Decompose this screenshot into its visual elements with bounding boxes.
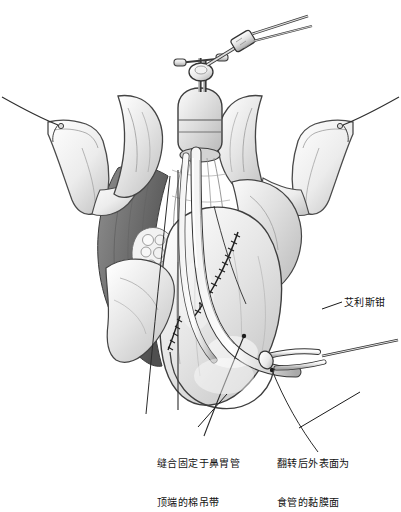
mucosa-label-line1: 翻转后外表面为 — [277, 457, 350, 470]
sling-label-line2: 顶端的棉吊带 — [157, 496, 240, 509]
sling-label-line1: 缝合固定于鼻胃管 — [157, 457, 240, 470]
mucosa-label-line2: 食管的黏膜面 — [277, 496, 350, 509]
allis-clamp-label: 艾利斯钳 — [344, 296, 386, 309]
mucosa-label: 翻转后外表面为 食管的黏膜面 — [277, 431, 350, 512]
sling-label: 缝合固定于鼻胃管 顶端的棉吊带 — [157, 431, 240, 512]
